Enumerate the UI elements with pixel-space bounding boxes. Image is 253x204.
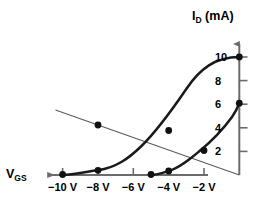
x-tick-label--4v: −4 V xyxy=(157,182,180,193)
load-line xyxy=(56,110,240,175)
transfer-curve-upper xyxy=(63,57,240,175)
y-axis xyxy=(239,44,247,175)
marker-upper-0v xyxy=(236,54,243,61)
x-tick-label--10v: −10 V xyxy=(48,182,77,193)
marker-lower--4v xyxy=(165,168,172,175)
y-tick-label-4: 4 xyxy=(215,122,221,133)
y-axis-title-subscript: D xyxy=(195,15,201,25)
transfer-curve-lower xyxy=(151,103,239,175)
y-axis-title: ID (mA) xyxy=(192,10,234,23)
y-tick-label-6: 6 xyxy=(215,99,221,110)
y-axis-title-unit: (mA) xyxy=(202,9,234,23)
y-tick-label-10: 10 xyxy=(215,52,227,63)
x-tick-label--8v: −8 V xyxy=(87,182,110,193)
marker-upper--8v xyxy=(95,167,102,174)
marker-upper--4v xyxy=(165,127,172,134)
marker-loadline--8v xyxy=(95,122,102,129)
transfer-characteristic-chart: ID (mA) VGS −10 V −8 V −6 V −4 V −2 V 2 … xyxy=(0,0,253,204)
y-tick-label-2: 2 xyxy=(215,146,221,157)
marker-upper--10v xyxy=(59,171,66,178)
x-axis-title-subscript: GS xyxy=(14,173,26,183)
x-tick-label--2v: −2 V xyxy=(193,182,216,193)
marker-lower--2v xyxy=(201,147,208,154)
x-axis-title: VGS xyxy=(6,168,27,181)
x-tick-label--6v: −6 V xyxy=(122,182,145,193)
marker-lower--5v xyxy=(148,171,155,178)
data-point-markers xyxy=(59,54,243,178)
marker-lower-0v xyxy=(236,100,243,107)
y-tick-label-8: 8 xyxy=(215,75,221,86)
